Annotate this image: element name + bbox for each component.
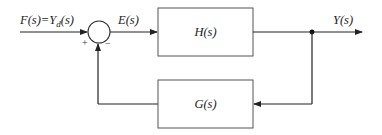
block-diagram: F(s)=Yd(s) + − E(s) H(s) Y(s) G(s) (0, 0, 382, 135)
forward-block-label: H(s) (193, 25, 216, 39)
input-label: F(s)=Yd(s) (19, 13, 74, 29)
output-label: Y(s) (333, 13, 353, 27)
minus-sign: − (105, 38, 111, 49)
feedback-block-label: G(s) (194, 97, 216, 111)
error-label: E(s) (117, 13, 139, 27)
plus-sign: + (82, 37, 88, 48)
